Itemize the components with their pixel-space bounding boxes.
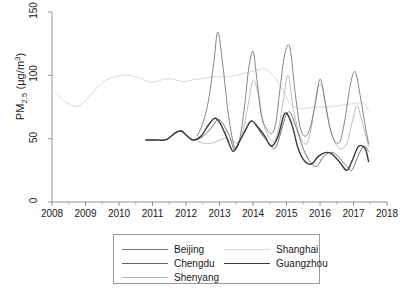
pm25-line-chart: PM2.5 (μg/m3) 050100150 2008200920102011… — [0, 0, 407, 290]
y-axis-tick-label: 50 — [28, 124, 39, 150]
legend-swatch-shanghai — [224, 249, 270, 250]
y-axis-label-prefix: PM — [14, 103, 26, 120]
x-axis-tick-label: 2016 — [303, 208, 337, 219]
y-axis-label-subscript: 2.5 — [20, 93, 29, 104]
y-axis-tick-label: 100 — [28, 61, 39, 87]
y-axis-label-superscript: 3 — [13, 56, 22, 60]
x-axis-tick-label: 2013 — [203, 208, 237, 219]
y-axis-tick-label: 150 — [28, 0, 39, 24]
legend-swatch-chengdu — [122, 263, 168, 264]
x-axis-tick-label: 2008 — [35, 208, 69, 219]
legend-label-guangzhou: Guangzhou — [276, 258, 328, 269]
y-axis-label-unit-open: (μg/m — [14, 61, 26, 93]
legend-label-chengdu: Chengdu — [174, 258, 215, 269]
legend-label-shanghai: Shanghai — [276, 244, 318, 255]
x-axis-tick-label: 2009 — [69, 208, 103, 219]
legend-swatch-shenyang — [122, 277, 168, 278]
legend-label-shenyang: Shenyang — [174, 272, 219, 283]
legend-label-beijing: Beijing — [174, 244, 204, 255]
legend-swatch-guangzhou — [224, 263, 270, 264]
y-axis-label-unit-close: ) — [14, 53, 26, 57]
x-axis-tick-label: 2011 — [136, 208, 170, 219]
legend-swatch-beijing — [122, 249, 168, 250]
series-line-shenyang — [198, 75, 369, 149]
x-axis-tick-label: 2010 — [102, 208, 136, 219]
x-axis-tick-label: 2017 — [337, 208, 371, 219]
x-axis-tick-label: 2014 — [236, 208, 270, 219]
x-axis-tick-label: 2018 — [370, 208, 404, 219]
legend: BeijingChengduShenyangShanghaiGuangzhou — [113, 234, 320, 284]
x-axis-tick-label: 2015 — [270, 208, 304, 219]
x-axis-tick-label: 2012 — [169, 208, 203, 219]
